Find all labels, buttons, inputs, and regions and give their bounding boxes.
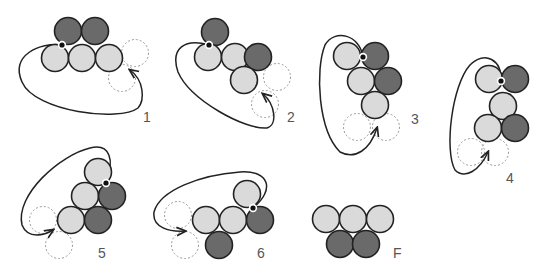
light-ball xyxy=(362,92,389,119)
step-panel-f: F xyxy=(313,206,402,262)
pivot-dot-icon xyxy=(59,42,64,47)
dark-ball xyxy=(375,68,402,95)
step-label: 6 xyxy=(257,245,265,261)
light-ball xyxy=(475,115,502,142)
pivot-dot-icon xyxy=(206,42,211,47)
dark-ball xyxy=(502,66,529,93)
light-ball xyxy=(348,68,375,95)
target-position-ghost xyxy=(172,232,199,259)
step-panel-1: 1 xyxy=(19,18,151,126)
target-position-ghost xyxy=(165,202,192,229)
light-ball xyxy=(96,45,123,72)
step-panel-4: 4 xyxy=(450,58,529,186)
pivot-dot-icon xyxy=(360,54,365,59)
step-panel-2: 2 xyxy=(176,19,295,129)
target-position-ghost xyxy=(122,40,149,67)
step-label: 1 xyxy=(143,109,151,125)
light-ball xyxy=(58,207,85,234)
light-ball xyxy=(334,43,361,70)
light-ball xyxy=(42,45,69,72)
step-label: 2 xyxy=(287,109,295,125)
dark-ball xyxy=(85,207,112,234)
step-panel-5: 5 xyxy=(21,147,125,261)
target-position-ghost xyxy=(458,139,485,166)
dark-ball xyxy=(99,183,126,210)
light-ball xyxy=(72,183,99,210)
step-label: 4 xyxy=(506,170,514,186)
dark-ball xyxy=(82,18,109,45)
step-label: F xyxy=(393,245,402,261)
dark-ball xyxy=(55,18,82,45)
dark-ball xyxy=(327,231,354,258)
light-ball xyxy=(69,45,96,72)
dark-ball xyxy=(206,232,233,259)
step-label: 3 xyxy=(411,111,419,127)
target-position-ghost xyxy=(252,91,279,118)
puzzle-move-diagram: 123456F xyxy=(0,0,550,279)
pivot-dot-icon xyxy=(103,180,108,185)
pivot-dot-icon xyxy=(250,205,255,210)
target-position-ghost xyxy=(46,232,73,259)
light-ball xyxy=(313,206,340,233)
light-ball xyxy=(231,67,258,94)
target-position-ghost xyxy=(482,139,509,166)
light-ball xyxy=(234,181,261,208)
light-ball xyxy=(367,206,394,233)
light-ball xyxy=(340,206,367,233)
step-panel-3: 3 xyxy=(320,36,419,155)
target-position-ghost xyxy=(30,207,57,234)
step-label: 5 xyxy=(98,245,106,261)
light-ball xyxy=(220,207,247,234)
dark-ball xyxy=(502,115,529,142)
dark-ball xyxy=(202,19,229,46)
target-position-ghost xyxy=(344,114,371,141)
step-panel-6: 6 xyxy=(154,172,274,261)
pivot-dot-icon xyxy=(498,78,503,83)
light-ball xyxy=(193,207,220,234)
dark-ball xyxy=(353,231,380,258)
